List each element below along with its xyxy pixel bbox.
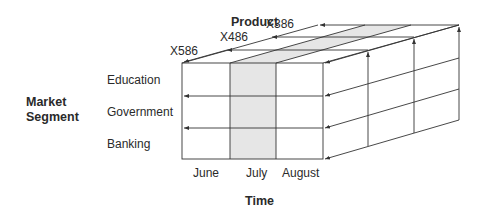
time-label-june: June: [193, 166, 219, 180]
july-slice-highlight: [230, 25, 411, 159]
time-label-july: July: [246, 166, 267, 180]
segment-label-education: Education: [107, 73, 160, 87]
product-label-x486: X486: [220, 30, 248, 44]
segment-label-banking: Banking: [107, 137, 150, 151]
segment-label-government: Government: [107, 105, 173, 119]
product-label-x386: X386: [266, 17, 294, 31]
time-label-august: August: [282, 166, 319, 180]
time-axis-title: Time: [245, 194, 274, 208]
product-label-x586: X586: [170, 44, 198, 58]
market-axis-title-line2: Segment: [26, 110, 79, 124]
market-axis-title-line1: Market: [26, 95, 66, 109]
